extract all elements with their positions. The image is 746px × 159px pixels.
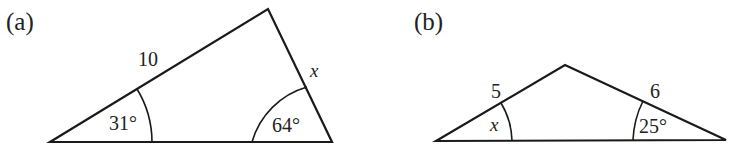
triangles-diagram: (a) 10 x 31° 64° (b) 5 6 x 25° (0, 0, 746, 159)
triangle-b (436, 65, 726, 141)
figure-b-label: (b) (414, 8, 443, 36)
figure-b: (b) 5 6 x 25° (414, 8, 726, 141)
side-label-x: x (309, 60, 319, 81)
angle-arc-x (501, 103, 512, 141)
angle-arc-31 (137, 89, 152, 142)
side-label-10: 10 (138, 48, 158, 70)
angle-label-25: 25° (639, 115, 667, 137)
angle-label-64: 64° (272, 114, 300, 136)
figure-a-label: (a) (6, 8, 34, 36)
side-label-5: 5 (491, 80, 501, 102)
figure-a: (a) 10 x 31° 64° (6, 8, 332, 142)
angle-label-x: x (489, 114, 499, 135)
angle-label-31: 31° (109, 112, 137, 134)
side-label-6: 6 (650, 80, 660, 102)
